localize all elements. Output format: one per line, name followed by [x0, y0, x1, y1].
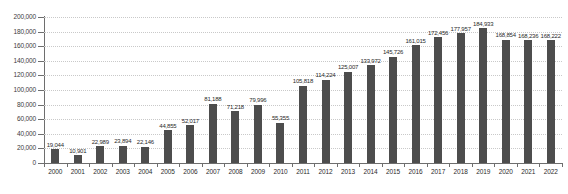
bar[interactable] — [299, 86, 307, 163]
bar[interactable] — [389, 57, 397, 163]
bar-slot: 23,894 — [112, 17, 135, 163]
x-axis-tick-label: 2019 — [476, 168, 490, 175]
x-axis-tick-label: 2010 — [273, 168, 287, 175]
bar-slot: 22,989 — [89, 17, 112, 163]
y-axis-tick-label: 200,000 — [0, 13, 36, 20]
y-axis-tick-label: 140,000 — [0, 57, 36, 64]
bar[interactable] — [119, 146, 127, 163]
x-axis-tick-label: 2004 — [138, 168, 152, 175]
x-axis-tick — [517, 163, 518, 167]
bar-value-label: 23,894 — [114, 138, 131, 144]
bar[interactable] — [322, 80, 330, 163]
x-axis-tick-label: 2021 — [521, 168, 535, 175]
bar-value-label: 133,972 — [360, 58, 380, 64]
bar-value-label: 161,015 — [405, 38, 425, 44]
bar-slot: 71,218 — [224, 17, 247, 163]
bar-slot: 81,188 — [202, 17, 225, 163]
x-axis-tick — [89, 163, 90, 167]
x-axis-tick — [427, 163, 428, 167]
bar[interactable] — [209, 104, 217, 163]
bar-slot: 145,726 — [382, 17, 405, 163]
bar-slot: 177,957 — [449, 17, 472, 163]
bar[interactable] — [479, 28, 487, 163]
x-axis-tick-label: 2017 — [431, 168, 445, 175]
x-axis-tick-label: 2018 — [454, 168, 468, 175]
x-axis-tick-label: 2001 — [71, 168, 85, 175]
bar-slot: 125,007 — [337, 17, 360, 163]
bar-slot: 133,972 — [359, 17, 382, 163]
x-axis-tick-label: 2000 — [48, 168, 62, 175]
bar-value-label: 44,855 — [159, 123, 176, 129]
bar[interactable] — [457, 33, 465, 163]
x-axis-tick — [44, 163, 45, 167]
x-axis-tick-label: 2015 — [386, 168, 400, 175]
x-axis-tick — [202, 163, 203, 167]
y-axis-tick-label: 180,000 — [0, 28, 36, 35]
x-axis-tick-label: 2011 — [296, 168, 310, 175]
bar-slot: 114,224 — [314, 17, 337, 163]
x-axis-tick — [449, 163, 450, 167]
x-axis-tick-label: 2003 — [116, 168, 130, 175]
x-axis-tick — [247, 163, 248, 167]
bar-value-label: 81,188 — [204, 96, 221, 102]
bar-slot: 44,855 — [157, 17, 180, 163]
x-axis-labels: 2000200120022003200420052006200720082009… — [44, 168, 562, 182]
x-axis-tick-label: 2008 — [228, 168, 242, 175]
bar[interactable] — [74, 155, 82, 163]
bar[interactable] — [344, 72, 352, 163]
bar[interactable] — [96, 146, 104, 163]
bar[interactable] — [367, 65, 375, 163]
y-axis-tick-label: 20,000 — [0, 144, 36, 151]
bar-slot: 19,044 — [44, 17, 67, 163]
bar-value-label: 52,017 — [182, 118, 199, 124]
x-axis-tick-label: 2002 — [93, 168, 107, 175]
bar-value-label: 177,957 — [450, 26, 470, 32]
x-axis-tick — [224, 163, 225, 167]
bar[interactable] — [434, 37, 442, 163]
x-axis-tick — [404, 163, 405, 167]
x-axis-tick — [67, 163, 68, 167]
x-axis-tick — [314, 163, 315, 167]
bar[interactable] — [276, 123, 284, 163]
x-axis-tick — [292, 163, 293, 167]
bar[interactable] — [502, 40, 510, 163]
x-axis-tick — [359, 163, 360, 167]
bar-value-label: 168,236 — [518, 33, 538, 39]
bar[interactable] — [51, 149, 59, 163]
bar-slot: 105,818 — [292, 17, 315, 163]
x-axis-tick-label: 2006 — [183, 168, 197, 175]
bar[interactable] — [186, 125, 194, 163]
x-axis-tick-label: 2013 — [341, 168, 355, 175]
bar[interactable] — [547, 40, 555, 163]
axis-baseline — [44, 163, 562, 164]
bar[interactable] — [231, 111, 239, 163]
bar-value-label: 172,456 — [428, 30, 448, 36]
bar-chart: 200,000180,000160,000140,000120,000100,0… — [0, 0, 568, 194]
x-axis-tick — [157, 163, 158, 167]
bar-value-label: 10,901 — [69, 148, 86, 154]
bar-slot: 22,146 — [134, 17, 157, 163]
bar[interactable] — [524, 40, 532, 163]
y-axis-tick-label: 40,000 — [0, 130, 36, 137]
bar[interactable] — [164, 130, 172, 163]
bar-value-label: 79,996 — [249, 97, 266, 103]
bar-value-label: 55,355 — [272, 115, 289, 121]
plot-area: 19,04410,90122,98923,89422,14644,85552,0… — [44, 17, 562, 163]
x-axis-tick — [179, 163, 180, 167]
bar-slot: 161,015 — [404, 17, 427, 163]
bar-slot: 79,996 — [247, 17, 270, 163]
bar[interactable] — [254, 105, 262, 163]
bar-slot: 184,933 — [472, 17, 495, 163]
x-axis-tick — [269, 163, 270, 167]
bar-value-label: 125,007 — [338, 64, 358, 70]
bar[interactable] — [412, 45, 420, 163]
x-axis-tick-label: 2014 — [364, 168, 378, 175]
x-axis-tick-label: 2012 — [318, 168, 332, 175]
bar[interactable] — [141, 147, 149, 163]
bar-value-label: 114,224 — [316, 72, 336, 78]
x-axis-tick-label: 2020 — [499, 168, 513, 175]
x-axis-tick — [382, 163, 383, 167]
bar-value-label: 105,818 — [293, 78, 313, 84]
bar-slot: 52,017 — [179, 17, 202, 163]
bar-value-label: 168,222 — [541, 33, 561, 39]
